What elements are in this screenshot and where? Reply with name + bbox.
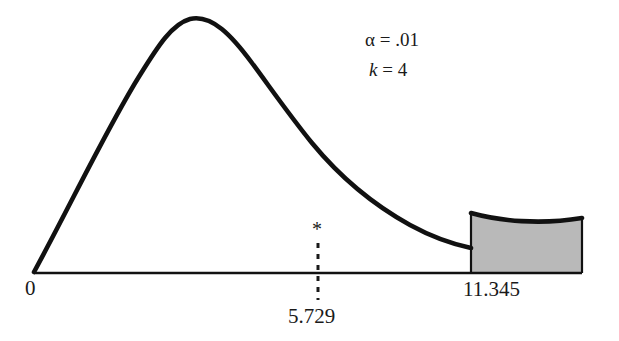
- chi-square-distribution-figure: * α = .01 k = 4 0 11.345 5.729: [0, 0, 619, 341]
- axis-label-critical-value: 11.345: [463, 279, 520, 300]
- distribution-plot: [0, 0, 619, 341]
- axis-label-origin: 0: [25, 278, 36, 299]
- test-statistic-asterisk: *: [312, 219, 322, 239]
- axis-label-test-statistic: 5.729: [288, 306, 335, 327]
- chi-square-density-curve: [34, 18, 471, 272]
- alpha-annotation: α = .01: [365, 30, 419, 49]
- degrees-of-freedom-annotation: k = 4: [369, 60, 407, 79]
- k-value-text: = 4: [377, 59, 407, 80]
